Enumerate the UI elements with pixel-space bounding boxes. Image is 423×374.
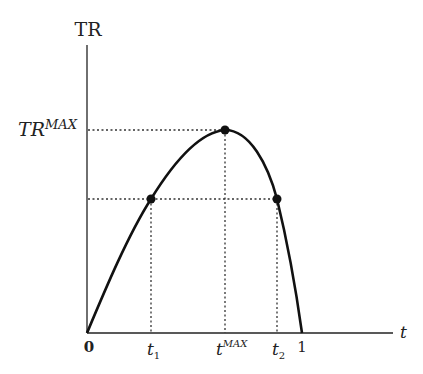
- trmax-label: TRMAX: [18, 117, 78, 140]
- point-t2: [273, 195, 282, 204]
- point-tmax: [221, 126, 230, 135]
- x-axis-label: t: [400, 322, 407, 342]
- y-axis-label: TR: [75, 18, 103, 40]
- one-label: 1: [297, 338, 307, 356]
- t2-label: t2: [272, 339, 285, 361]
- t1-label: t1: [147, 339, 160, 361]
- tmax-label: tMAX: [216, 338, 248, 359]
- guide-lines: [88, 130, 277, 333]
- tr-chart: TR TRMAX 0 t1 tMAX t2 1 t: [0, 0, 423, 374]
- origin-label: 0: [84, 338, 94, 356]
- tr-curve: [87, 130, 302, 333]
- point-t1: [147, 195, 156, 204]
